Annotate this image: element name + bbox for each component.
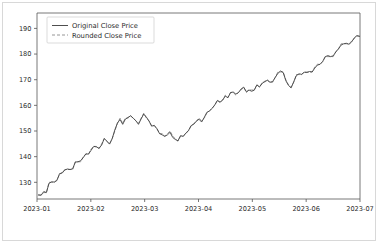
legend-label-rounded: Rounded Close Price: [72, 32, 141, 40]
y-tick-label: 190: [19, 25, 32, 33]
x-tick-label: 2023-01: [23, 205, 51, 213]
x-tick-label: 2023-02: [77, 205, 105, 213]
x-tick-label: 2023-07: [346, 205, 374, 213]
chart-figure: 130140150160170180190 2023-012023-022023…: [0, 0, 379, 244]
x-tick-label: 2023-06: [292, 205, 320, 213]
x-tick-label: 2023-03: [131, 205, 159, 213]
x-tick-label: 2023-05: [239, 205, 267, 213]
x-axis-ticks: 2023-012023-022023-032023-042023-052023-…: [23, 199, 374, 213]
y-tick-label: 130: [19, 179, 32, 187]
line-chart-plot: 130140150160170180190 2023-012023-022023…: [0, 0, 379, 244]
y-axis-ticks: 130140150160170180190: [19, 25, 37, 187]
legend-label-original: Original Close Price: [72, 22, 138, 30]
x-tick-label: 2023-04: [185, 205, 213, 213]
chart-legend: Original Close Price Rounded Close Price: [47, 17, 154, 43]
y-tick-label: 160: [19, 102, 32, 110]
y-tick-label: 170: [19, 76, 32, 84]
y-tick-label: 180: [19, 50, 32, 58]
y-tick-label: 140: [19, 153, 32, 161]
y-tick-label: 150: [19, 127, 32, 135]
